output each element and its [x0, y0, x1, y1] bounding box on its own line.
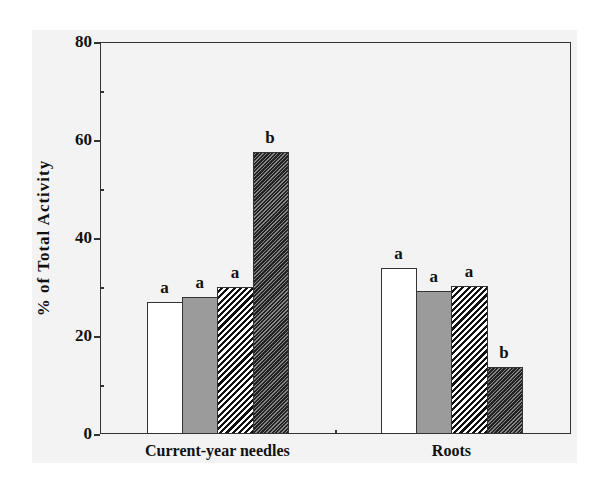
x-category-label: Current-year needles: [145, 442, 290, 460]
y-tick: [94, 42, 100, 44]
y-tick-label: 0: [52, 424, 92, 444]
x-category-label: Roots: [432, 442, 471, 460]
bar: [451, 286, 487, 434]
bar: [487, 367, 523, 434]
x-tick: [335, 430, 337, 434]
y-minor-tick: [100, 189, 104, 191]
y-tick-label: 80: [52, 32, 92, 52]
y-tick: [94, 140, 100, 142]
y-minor-tick: [100, 385, 104, 387]
y-minor-tick: [100, 91, 104, 93]
bar: [182, 297, 218, 434]
bar: [381, 268, 417, 434]
y-minor-tick: [100, 287, 104, 289]
y-tick: [94, 336, 100, 338]
significance-letter: a: [217, 263, 252, 283]
y-axis-label: % of Total Activity: [34, 160, 54, 316]
bar: [147, 302, 183, 434]
y-tick-label: 40: [52, 228, 92, 248]
significance-letter: a: [416, 267, 451, 287]
y-tick-label: 20: [52, 326, 92, 346]
y-tick: [94, 434, 100, 436]
significance-letter: b: [487, 343, 522, 363]
significance-letter: b: [253, 128, 288, 148]
bar: [253, 152, 289, 434]
bar: [217, 287, 253, 434]
significance-letter: a: [147, 278, 182, 298]
y-tick: [94, 238, 100, 240]
significance-letter: a: [381, 244, 416, 264]
significance-letter: a: [182, 273, 217, 293]
y-tick-label: 60: [52, 130, 92, 150]
significance-letter: a: [451, 262, 486, 282]
bar: [416, 291, 452, 434]
